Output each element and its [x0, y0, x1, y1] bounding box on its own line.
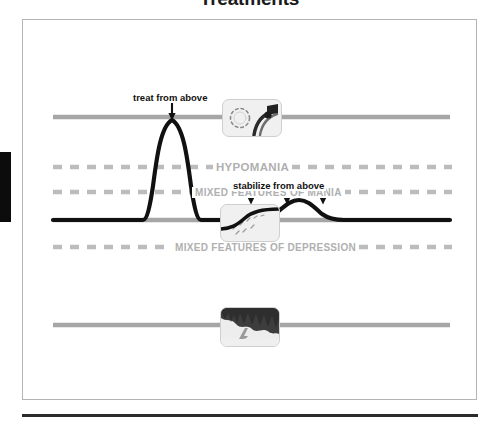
- storm-cloud-lightning-icon: [220, 307, 280, 347]
- left-edge-tab: [0, 152, 11, 222]
- bottom-divider-rule: [22, 414, 478, 417]
- sun-and-pill-icon: [222, 99, 282, 137]
- page-title: Treatments: [0, 0, 499, 10]
- annotation-stabilize-from-above: stabilize from above: [231, 180, 326, 191]
- rising-curve-icon: [220, 204, 280, 242]
- zone-label-mixed-features-of-depression: MIXED FEATURES OF DEPRESSION: [172, 242, 359, 253]
- zone-label-hypomania: HYPOMANIA: [213, 161, 292, 173]
- annotation-treat-from-above: treat from above: [133, 92, 207, 103]
